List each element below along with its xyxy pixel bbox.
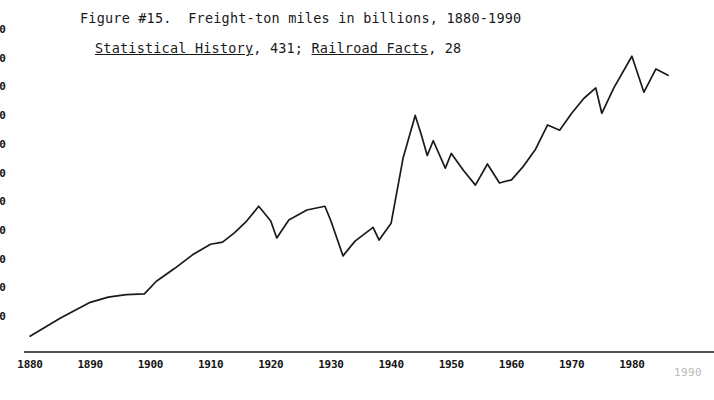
- x-tick-label-1940: 1940: [378, 358, 403, 371]
- x-tick-label-1970: 1970: [559, 358, 584, 371]
- x-tick-label-1920: 1920: [258, 358, 283, 371]
- x-tick-label-1880: 1880: [17, 358, 42, 371]
- x-tick-label-1910: 1910: [198, 358, 223, 371]
- x-tick-label-1890: 1890: [78, 358, 103, 371]
- x-tick-label-1950: 1950: [439, 358, 464, 371]
- x-tick-label-1960: 1960: [499, 358, 524, 371]
- x-tick-label-1930: 1930: [318, 358, 343, 371]
- figure-root: Figure #15. Freight-ton miles in billion…: [0, 0, 714, 400]
- x-tick-label-1990: 1990: [674, 366, 702, 379]
- x-tick-label-1980: 1980: [619, 358, 644, 371]
- x-axis-tick-labels: 1880189019001910192019301940195019601970…: [0, 0, 714, 400]
- x-tick-label-1900: 1900: [138, 358, 163, 371]
